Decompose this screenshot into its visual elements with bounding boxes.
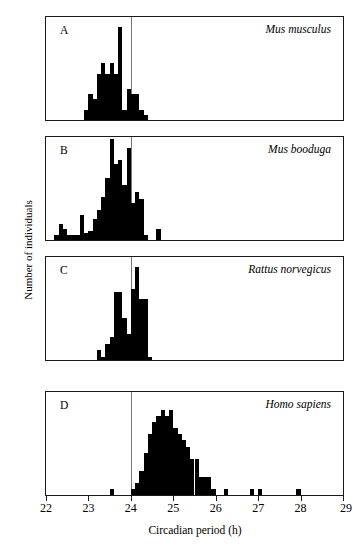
y-tick-mark bbox=[45, 360, 46, 361]
y-tick-mark bbox=[45, 17, 46, 18]
x-axis-ticks: 2223242526272829 bbox=[45, 496, 344, 518]
y-tick-mark bbox=[45, 43, 46, 44]
panel-d-letter: D bbox=[60, 399, 68, 411]
histogram-bar bbox=[211, 489, 215, 495]
reference-line-24h bbox=[131, 392, 132, 495]
panel-a-species-label: Mus musculus bbox=[266, 23, 332, 35]
y-tick-mark bbox=[45, 263, 46, 264]
y-tick-mark bbox=[45, 171, 46, 172]
histogram-bar bbox=[144, 235, 148, 240]
histogram-bar bbox=[110, 489, 114, 495]
histogram-bar bbox=[148, 357, 152, 360]
y-tick-mark bbox=[45, 194, 46, 195]
circadian-period-figure: Number of individuals A Mus musculus 051… bbox=[0, 0, 353, 548]
x-tick-label: 25 bbox=[153, 501, 193, 516]
x-tick-label: 27 bbox=[238, 501, 278, 516]
y-tick-mark bbox=[45, 217, 46, 218]
panel-a-letter: A bbox=[60, 24, 68, 36]
y-tick-mark bbox=[45, 148, 46, 149]
y-tick-mark bbox=[45, 296, 46, 297]
histogram-bar bbox=[144, 299, 148, 360]
panel-d: D Homo sapiens 051015 bbox=[45, 391, 344, 496]
histogram-bar bbox=[258, 489, 262, 495]
histogram-bar bbox=[118, 27, 122, 120]
x-axis-title: Circadian period (h) bbox=[45, 524, 345, 536]
panel-c-species-label: Rattus norvegicus bbox=[248, 263, 331, 275]
histogram-bar bbox=[250, 489, 254, 495]
histogram-bar bbox=[156, 229, 160, 240]
panel-b-letter: B bbox=[60, 144, 68, 156]
x-tick-label: 23 bbox=[68, 501, 108, 516]
panel-c-letter: C bbox=[60, 264, 68, 276]
y-tick-mark bbox=[45, 404, 46, 405]
y-tick-mark bbox=[45, 240, 46, 241]
y-tick-mark bbox=[45, 465, 46, 466]
y-tick-mark bbox=[45, 434, 46, 435]
y-tick-mark bbox=[45, 328, 46, 329]
y-tick-mark bbox=[45, 120, 46, 121]
x-tick-label: 22 bbox=[26, 501, 66, 516]
x-tick-label: 29 bbox=[340, 501, 353, 516]
y-tick-mark bbox=[45, 69, 46, 70]
panel-a: A Mus musculus 05101520 bbox=[45, 16, 344, 121]
panel-c: C Rattus norvegicus 0102030 bbox=[45, 256, 344, 361]
y-axis-title: Number of individuals bbox=[22, 160, 34, 340]
x-tick-label: 24 bbox=[111, 501, 151, 516]
histogram-bar bbox=[224, 489, 228, 495]
x-tick-label: 28 bbox=[281, 501, 321, 516]
x-tick-label: 26 bbox=[196, 501, 236, 516]
panel-d-species-label: Homo sapiens bbox=[266, 398, 332, 410]
histogram-bar bbox=[139, 199, 143, 240]
histogram-bar bbox=[296, 489, 300, 495]
y-tick-mark bbox=[45, 94, 46, 95]
panel-b: B Mus booduga 010203040 bbox=[45, 136, 344, 241]
panel-b-species-label: Mus booduga bbox=[268, 143, 331, 155]
histogram-bar bbox=[144, 115, 148, 120]
